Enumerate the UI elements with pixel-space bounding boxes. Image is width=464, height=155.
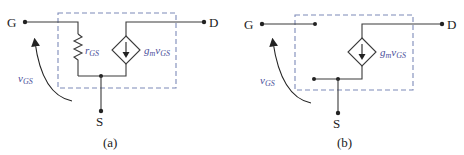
current-arrowhead-icon: [123, 52, 130, 58]
gate-open-end-dot-b: [313, 22, 317, 26]
vgs-label-a: vGS: [18, 72, 33, 86]
vgs-arrow-icon-a: [35, 42, 72, 101]
resistor-rgs-icon: [74, 34, 82, 76]
resistor-label-a: rGS: [85, 44, 99, 58]
source-label-terminal-a: S: [96, 114, 103, 129]
vgs-label-b: vGS: [260, 74, 275, 88]
panel-a: G rGS gmvGS D S vGS (a): [7, 13, 218, 150]
gate-terminal-dot-a: [23, 20, 27, 24]
gate-wire-a: [25, 22, 78, 34]
caption-a: (a): [103, 135, 117, 150]
drain-terminal-dot-a: [202, 20, 206, 24]
drain-wire-a: [126, 22, 204, 36]
drain-label-b: D: [447, 17, 456, 32]
mosfet-small-signal-diagram: G rGS gmvGS D S vGS (a) G: [0, 0, 464, 155]
source-terminal-dot-b: [336, 111, 340, 115]
gate-terminal-dot-b: [260, 22, 264, 26]
drain-wire-b: [362, 24, 442, 38]
source-label-b: gmvGS: [380, 46, 406, 60]
bottom-wire-a: [78, 64, 126, 76]
bottom-open-end-dot-b: [312, 77, 316, 81]
gate-label-a: G: [7, 15, 16, 30]
panel-b: G gmvGS D S vGS (b): [244, 15, 456, 150]
source-label-terminal-b: S: [333, 116, 340, 131]
drain-terminal-dot-b: [440, 22, 444, 26]
source-terminal-dot-a: [99, 109, 103, 113]
vgs-arrow-icon-b: [273, 42, 311, 103]
current-arrowhead-icon: [359, 54, 366, 60]
drain-label-a: D: [209, 15, 218, 30]
caption-b: (b): [337, 135, 352, 150]
gate-label-b: G: [244, 17, 253, 32]
source-label-a: gmvGS: [144, 44, 170, 58]
